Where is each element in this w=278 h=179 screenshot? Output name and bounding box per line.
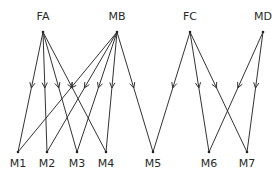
edge-line [153, 32, 190, 152]
edge-MB-M2 [47, 32, 117, 152]
edge-FA-M1 [18, 32, 43, 152]
edge-line [43, 32, 47, 152]
edge-line [18, 32, 117, 152]
edge-line [117, 32, 153, 152]
node-dot-MB [116, 31, 119, 34]
node-label-MD: MD [254, 10, 272, 23]
node-dot-FA [42, 31, 45, 34]
node-label-M4: M4 [98, 157, 115, 170]
pedigree-diagram: FA MB FC MD M1 M2 M3 M4 M5 M6 M7 [0, 0, 278, 179]
node-label-M2: M2 [39, 157, 56, 170]
edge-FC-M6 [190, 32, 209, 152]
edge-line [47, 32, 117, 152]
edge-FA-M2 [42, 32, 47, 152]
node-label-FC: FC [183, 10, 197, 23]
node-label-M7: M7 [239, 157, 256, 170]
edge-line [43, 32, 77, 152]
node-dot-M3 [76, 151, 79, 154]
node-dot-M4 [105, 151, 108, 154]
node-dot-M1 [17, 151, 20, 154]
edge-line [18, 32, 43, 152]
edge-FA-M3 [43, 32, 77, 152]
node-label-M5: M5 [145, 157, 162, 170]
edge-line [190, 32, 209, 152]
edge-FC-M5 [153, 32, 190, 152]
node-label-M6: M6 [201, 157, 218, 170]
edge-FC-M7 [190, 32, 247, 152]
node-dot-M7 [246, 151, 249, 154]
edge-line [190, 32, 247, 152]
edge-MB-M5 [117, 32, 153, 152]
node-label-M3: M3 [69, 157, 86, 170]
edges-layer [18, 32, 263, 152]
node-dot-M6 [208, 151, 211, 154]
node-dot-M2 [46, 151, 49, 154]
nodes-layer: FA MB FC MD M1 M2 M3 M4 M5 M6 M7 [10, 10, 272, 170]
edge-MB-M1 [18, 32, 117, 152]
node-label-MB: MB [108, 10, 125, 23]
node-dot-MD [262, 31, 265, 34]
node-label-M1: M1 [10, 157, 27, 170]
node-dot-M5 [152, 151, 155, 154]
node-dot-FC [189, 31, 192, 34]
node-label-FA: FA [37, 10, 50, 23]
